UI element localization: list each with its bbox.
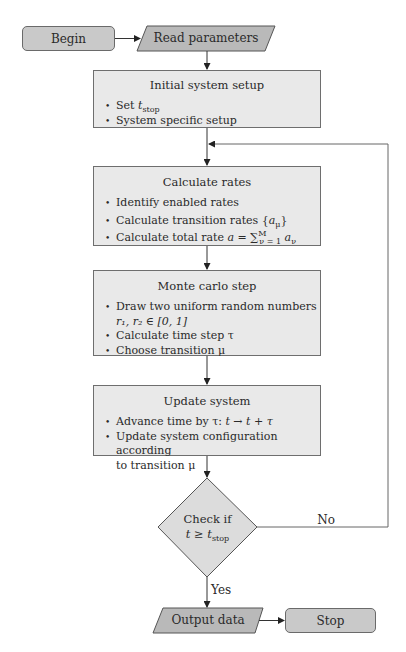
monte-item-choose-transition: Choose transition μ <box>116 344 320 359</box>
update-item-configuration: Update system configuration according to… <box>116 430 320 474</box>
read-parameters-label: Read parameters <box>140 31 272 45</box>
monte-carlo-title: Monte carlo step <box>94 279 320 293</box>
output-data-label: Output data <box>156 613 260 627</box>
flowchart-canvas: Begin Read parameters Initial system set… <box>0 0 406 652</box>
calculate-rates-title: Calculate rates <box>94 175 320 189</box>
begin-label: Begin <box>51 32 86 46</box>
initial-item-set-tstop: Set tstop <box>116 99 320 114</box>
calc-item-identify: Identify enabled rates <box>116 196 320 211</box>
stop-label: Stop <box>317 614 345 628</box>
initial-setup-box: Initial system setup Set tstop System sp… <box>93 70 321 128</box>
update-system-title: Update system <box>94 394 320 408</box>
update-system-box: Update system Advance time by τ: t → t +… <box>93 385 321 456</box>
decision-label: Check if t ≥ tstop <box>160 512 255 542</box>
stop-terminal: Stop <box>285 608 376 633</box>
monte-item-draw-random: Draw two uniform random numbers r₁, r₂ ∈… <box>116 300 320 329</box>
update-item-advance-time: Advance time by τ: t → t + τ <box>116 415 320 430</box>
begin-terminal: Begin <box>22 26 115 51</box>
calc-item-total-rate: Calculate total rate a = ∑Mν = 1 aν <box>116 231 320 246</box>
initial-item-system-specific: System specific setup <box>116 114 320 129</box>
calculate-rates-box: Calculate rates Identify enabled rates C… <box>93 166 321 246</box>
initial-setup-title: Initial system setup <box>94 78 320 92</box>
decision-line1: Check if <box>160 512 255 527</box>
monte-item-time-step: Calculate time step τ <box>116 329 320 344</box>
edge-label-yes: Yes <box>211 583 239 597</box>
decision-line2: t ≥ tstop <box>160 527 255 542</box>
edge-label-no: No <box>312 513 340 527</box>
calc-item-transition-rates: Calculate transition rates {aμ} <box>116 214 320 229</box>
monte-carlo-box: Monte carlo step Draw two uniform random… <box>93 270 321 356</box>
